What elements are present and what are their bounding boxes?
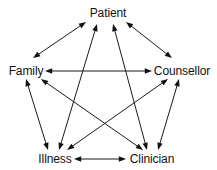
edge-illness-counsellor — [67, 79, 168, 150]
edge-line-family-clinician — [46, 82, 139, 147]
arrow-head-patient-illness-to-illness — [58, 142, 63, 150]
edge-family-counsellor — [45, 68, 152, 73]
edge-line-patient-counsellor — [130, 25, 167, 54]
edge-line-patient-illness — [61, 29, 96, 144]
edge-line-patient-clinician — [114, 29, 145, 144]
arrow-head-illness-clinician-to-clinician — [119, 156, 126, 161]
arrow-head-illness-counsellor-to-counsellor — [161, 79, 168, 85]
arrow-head-family-patient-to-family — [33, 52, 40, 58]
arrow-head-patient-counsellor-to-counsellor — [165, 51, 172, 58]
edge-patient-illness — [58, 24, 97, 150]
edge-family-patient — [33, 22, 86, 58]
edge-patient-counsellor — [126, 22, 172, 58]
edge-line-family-patient — [38, 25, 82, 55]
edge-line-illness-counsellor — [72, 82, 164, 147]
arrow-head-family-counsellor-to-family — [45, 68, 52, 73]
arrow-head-illness-clinician-to-illness — [74, 156, 81, 161]
edge-patient-clinician — [112, 24, 147, 150]
edge-family-clinician — [41, 79, 143, 150]
arrow-head-counsellor-clinician-to-clinician — [157, 142, 162, 150]
node-label-illness: Illness — [38, 153, 71, 166]
arrow-head-patient-clinician-to-patient — [112, 24, 117, 32]
arrow-head-illness-counsellor-to-illness — [67, 144, 74, 150]
arrow-head-family-illness-to-illness — [43, 142, 48, 150]
node-label-family: Family — [9, 65, 44, 78]
diagram-edges-canvas — [0, 0, 217, 170]
arrow-head-family-illness-to-family — [26, 79, 31, 87]
edge-line-counsellor-clinician — [160, 84, 178, 144]
edge-family-illness — [26, 79, 49, 150]
arrow-head-counsellor-clinician-to-counsellor — [174, 79, 179, 87]
arrow-head-family-clinician-to-clinician — [136, 144, 143, 150]
arrow-head-patient-illness-to-patient — [92, 24, 97, 32]
edge-counsellor-clinician — [157, 79, 179, 150]
edge-illness-clinician — [74, 156, 126, 161]
arrow-head-patient-clinician-to-clinician — [143, 142, 148, 150]
arrow-head-family-counsellor-to-counsellor — [145, 68, 152, 73]
relationship-diagram: PatientFamilyCounsellorIllnessClinician — [0, 0, 217, 170]
node-label-patient: Patient — [90, 7, 127, 20]
node-label-counsellor: Counsellor — [154, 65, 210, 78]
arrow-head-family-patient-to-patient — [79, 22, 86, 28]
edge-line-family-illness — [28, 84, 47, 144]
arrow-head-family-clinician-to-family — [41, 79, 48, 85]
arrow-head-patient-counsellor-to-patient — [126, 22, 133, 29]
node-label-clinician: Clinician — [130, 153, 174, 166]
